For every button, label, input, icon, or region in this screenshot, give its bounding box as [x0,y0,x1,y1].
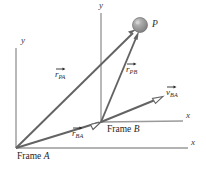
vector-r-pb-symbol: r [126,65,130,74]
frame-b-label-suffix: B [134,124,140,134]
particle-p-sphere [133,18,148,33]
relative-motion-diagram: y x y x Frame A Frame B P rPA rPB rBA vB… [0,0,206,171]
vector-v-ba-subscript: BA [170,91,178,98]
frame-a-y-axis-label: y [21,36,25,45]
frame-a-label-suffix: A [44,151,50,161]
vector-r-pb-subscript: PB [130,68,138,75]
vector-r-ba-arrowhead [91,122,102,130]
vector-v-ba-label: vBA [166,88,178,98]
frame-b-x-axis-label: x [186,111,190,120]
vector-v-ba-arrowhead [153,97,164,104]
particle-p [133,18,148,33]
diagram-canvas [0,0,206,171]
frame-a-x-axis-label: x [191,138,195,147]
vector-r-pb-label: rPB [126,65,137,75]
vector-r-ba-label: rBA [72,129,83,139]
vector-r-pa-symbol: r [55,70,59,79]
frame-b-label-prefix: Frame [107,124,131,134]
vector-r-ba-subscript: BA [76,132,84,139]
frame-b-label: Frame B [107,125,139,135]
particle-p-highlight [136,20,140,24]
frame-a-label-prefix: Frame [17,151,41,161]
frame-b-x-axis-line [101,121,183,122]
vector-r-pa-label: rPA [55,70,65,80]
frame-b-y-axis-label: y [99,1,103,10]
point-p-label: P [152,20,158,30]
vector-r-ba-symbol: r [72,129,76,138]
frame-a-label: Frame A [17,152,49,162]
vector-v-ba-symbol: v [166,88,170,97]
vector-r-pa-subscript: PA [59,73,66,80]
vector-label-accents [56,63,177,130]
